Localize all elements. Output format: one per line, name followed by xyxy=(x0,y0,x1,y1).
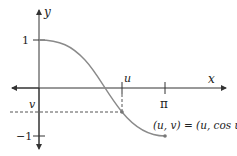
point-annotation: (u, v) = (u, cos u) xyxy=(153,119,237,131)
label-y-minus-one: −1 xyxy=(16,130,32,143)
label-y-v: v xyxy=(29,98,36,111)
x-axis-label: x xyxy=(208,72,215,86)
label-x-u: u xyxy=(124,72,131,85)
cosine-diagram: y x 1 −1 π u v (u, v) = (u, cos u) xyxy=(0,0,237,156)
point-end xyxy=(163,134,167,138)
label-y-one: 1 xyxy=(22,34,29,47)
label-x-pi: π xyxy=(160,97,168,111)
point-u-v xyxy=(120,110,124,114)
y-axis-label: y xyxy=(43,5,51,19)
